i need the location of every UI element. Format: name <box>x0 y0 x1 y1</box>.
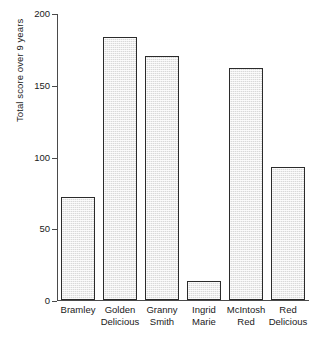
bar <box>187 281 221 300</box>
y-tick-label: 150 <box>20 81 50 91</box>
bar <box>103 37 137 300</box>
y-tick-label: 200 <box>20 9 50 19</box>
x-axis-label: RedDelicious <box>263 304 313 327</box>
y-tick: 0 <box>57 301 58 302</box>
y-axis-title: Total score over 9 years <box>13 2 27 122</box>
x-axis-labels: BramleyGoldenDeliciousGrannySmithIngridM… <box>57 304 309 336</box>
bar <box>145 56 179 300</box>
y-tick-mark <box>52 301 57 302</box>
bar-chart: Total score over 9 years 050100150200 Br… <box>0 0 325 337</box>
bar <box>229 68 263 300</box>
y-tick-label: 0 <box>20 296 50 306</box>
bar-series <box>57 14 309 301</box>
y-tick-label: 100 <box>20 153 50 163</box>
y-tick-label: 50 <box>20 224 50 234</box>
bar <box>61 197 95 300</box>
x-axis-label-line: Delicious <box>263 316 313 328</box>
plot-area: 050100150200 <box>57 14 309 301</box>
x-axis-label-line: Red <box>263 304 313 316</box>
bar <box>271 167 305 300</box>
